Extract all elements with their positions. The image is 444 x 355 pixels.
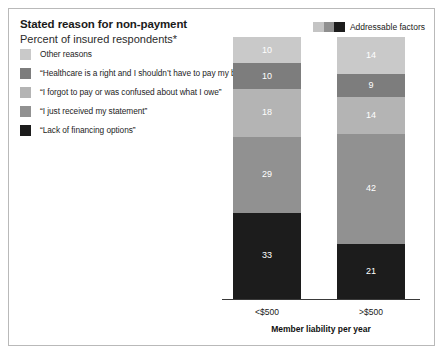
bar-segment-value: 10 <box>262 46 272 55</box>
x-axis-line <box>222 299 420 300</box>
stacked-bar[interactable]: 214214914 <box>337 37 405 299</box>
bar-segment[interactable]: 42 <box>337 134 405 244</box>
bar-segment-value: 14 <box>366 111 376 120</box>
bar-segment[interactable]: 10 <box>233 37 301 63</box>
bar-segment[interactable]: 33 <box>233 213 301 299</box>
stacked-bar[interactable]: 3329181010 <box>233 37 301 299</box>
bar-segment[interactable]: 18 <box>233 89 301 136</box>
plot-area: Member liability per year 3329181010<$50… <box>9 9 434 345</box>
x-axis-tick-label: >$500 <box>337 307 405 317</box>
bar-segment[interactable]: 9 <box>337 74 405 98</box>
chart-frame: Stated reason for non-payment Percent of… <box>8 8 435 346</box>
bar-segment[interactable]: 14 <box>337 37 405 74</box>
bar-segment-value: 42 <box>366 184 376 193</box>
bar-segment[interactable]: 21 <box>337 244 405 299</box>
bar-segment-value: 9 <box>368 81 373 90</box>
bar-segment-value: 33 <box>262 251 272 260</box>
bar-segment[interactable]: 14 <box>337 97 405 134</box>
bar-segment-value: 14 <box>366 51 376 60</box>
x-axis-title: Member liability per year <box>222 324 420 334</box>
bar-segment-value: 21 <box>366 267 376 276</box>
bar-segment-value: 29 <box>262 170 272 179</box>
bar-segment-value: 10 <box>262 72 272 81</box>
bar-segment[interactable]: 29 <box>233 137 301 213</box>
bar-segment-value: 18 <box>262 108 272 117</box>
x-axis-tick-label: <$500 <box>233 307 301 317</box>
bar-segment[interactable]: 10 <box>233 63 301 89</box>
